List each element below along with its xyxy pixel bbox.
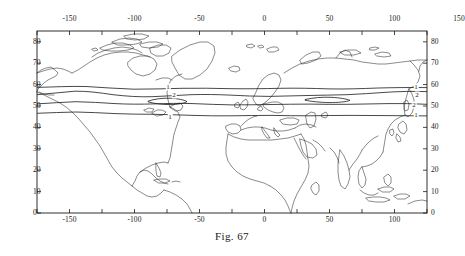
coastline-caribbean-cuba <box>154 179 170 183</box>
coastline-denmark <box>258 106 263 111</box>
top-tick-label: 50 <box>326 15 334 23</box>
coastline-caspian <box>306 112 316 128</box>
coastline-novaya-zemlya <box>300 52 321 64</box>
coastline-western-europe <box>241 116 257 126</box>
coastline-siberia-island-2 <box>375 52 391 57</box>
coastline-central-america <box>132 186 164 197</box>
coastline-florida <box>156 163 161 177</box>
bottom-tick-label: -50 <box>194 216 204 224</box>
coastline-indonesia-2 <box>378 187 394 192</box>
right-tick-label: 20 <box>431 166 439 174</box>
contour-line-1-north <box>37 86 427 89</box>
coastline-madagascar <box>311 182 319 195</box>
top-axis-ticks <box>37 31 427 35</box>
top-tick-label: -50 <box>194 15 204 23</box>
coastline-caribbean-isles <box>172 181 180 182</box>
coastline-red-sea <box>294 138 306 159</box>
bottom-tick-label: 100 <box>389 216 401 224</box>
right-tick-label: 30 <box>431 145 439 153</box>
coastline-black-sea <box>280 118 299 125</box>
bottom-tick-label: -100 <box>127 216 141 224</box>
coastline-aral <box>322 112 328 118</box>
coastline-africa-west <box>226 134 270 186</box>
coastline-asia-sea <box>362 136 378 150</box>
coastline-canada-arctic-islands <box>92 47 142 57</box>
coastline-iceland <box>229 66 240 72</box>
coastline-baffin <box>150 45 171 56</box>
coastline-great-lakes <box>152 110 166 116</box>
right-tick-label: 10 <box>431 188 439 196</box>
top-tick-label: 150 <box>453 15 465 23</box>
coastline-india-west <box>330 148 339 163</box>
bottom-tick-label: 50 <box>326 216 334 224</box>
right-tick-label: 70 <box>431 59 439 67</box>
coastline-indonesia-1 <box>366 197 390 202</box>
right-tick-label: 80 <box>431 38 439 46</box>
right-tick-label: 0 <box>431 209 435 217</box>
coastline-indochina <box>358 167 366 188</box>
coastline-new-guinea <box>408 200 427 204</box>
coastline-gulf-coast <box>140 162 168 172</box>
axis-ticks <box>37 31 427 213</box>
coastline-africa-south <box>270 186 291 213</box>
coastline-iberia <box>226 124 241 134</box>
coastline-speck-1 <box>247 44 255 48</box>
coastline-scandinavia <box>253 73 281 106</box>
coastline-arabia <box>300 139 317 158</box>
plot-frame <box>37 31 427 213</box>
top-tick-label: 100 <box>389 15 401 23</box>
contour-label: 1 <box>414 84 419 91</box>
coastline-canada-north <box>72 52 150 73</box>
coastline-na-west <box>37 92 132 186</box>
top-tick-label: -150 <box>62 15 76 23</box>
coastline-japan <box>398 121 407 134</box>
coastline-south-america-top <box>164 190 192 213</box>
coastline-philippines <box>384 174 391 186</box>
coastline-alaska-right-edge <box>419 60 427 71</box>
coastline-alaska-north <box>37 68 72 73</box>
right-axis-ticks <box>423 42 427 213</box>
bottom-axis-ticks <box>37 209 427 213</box>
contour-label: 1 <box>414 112 419 119</box>
contour-label: 2 <box>172 92 177 99</box>
top-tick-label: 0 <box>263 15 267 23</box>
contour-layer <box>37 86 427 116</box>
coastline-hudson-bay <box>128 56 157 76</box>
coastline-india <box>338 150 350 189</box>
coastline-japan-2 <box>396 134 401 142</box>
coastline-bay-bengal <box>349 150 362 170</box>
right-tick-label: 50 <box>431 102 439 110</box>
bottom-tick-label: -150 <box>62 216 76 224</box>
coastline-speck-4 <box>370 47 379 50</box>
bottom-tick-label: 0 <box>263 216 267 224</box>
contour-line-2-lower <box>37 102 427 105</box>
coastline-korea <box>390 129 394 136</box>
coastline-africa-east <box>291 134 309 213</box>
coastline-siberia-island-1 <box>340 50 361 55</box>
top-tick-label: -100 <box>127 15 141 23</box>
coastline-malay <box>360 190 378 195</box>
figure-caption: Fig. 67 <box>0 230 464 242</box>
coastline-greece-balkans <box>274 128 280 137</box>
coastline-speck-2 <box>258 45 264 48</box>
contour-line-2-upper <box>37 91 427 97</box>
coastline-great-lakes-2 <box>144 108 154 112</box>
coastline-hudson-strait <box>156 78 172 80</box>
coastline-speck-3 <box>92 48 98 51</box>
coastline-mexico-gulf <box>132 170 168 186</box>
coastline-turkey <box>295 124 316 128</box>
coastline-siberia-north <box>284 58 427 73</box>
contour-closed-central-asia <box>305 97 350 102</box>
coastline-china-coast <box>362 152 383 167</box>
contour-line-1-south <box>37 112 427 116</box>
coastline-persian-gulf <box>313 140 325 151</box>
coastline-indonesia-3 <box>394 194 410 199</box>
coastline-baltic <box>263 102 284 113</box>
coastline-svalbard <box>267 47 279 52</box>
coastline-layer <box>37 34 427 213</box>
right-tick-label: 40 <box>431 123 439 131</box>
contour-label: 2 <box>415 92 420 99</box>
coastline-greenland <box>172 42 215 79</box>
right-tick-label: 60 <box>431 81 439 89</box>
